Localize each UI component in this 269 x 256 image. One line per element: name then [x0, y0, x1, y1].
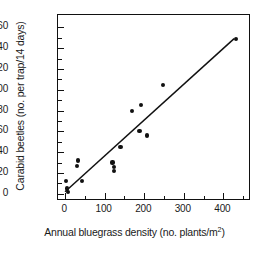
y-axis-title: Carabid beetles (no. per trap/14 days) [14, 8, 26, 204]
y-axis-tick [58, 194, 64, 195]
x-axis-tick [105, 193, 106, 199]
data-point [110, 160, 114, 164]
y-axis-tick-label: 120 [0, 63, 8, 73]
x-axis-minor-tick [164, 196, 165, 200]
x-axis-tick [223, 193, 224, 199]
y-axis-minor-tick [58, 163, 62, 164]
y-axis-minor-tick [58, 79, 62, 80]
x-axis-minor-tick [85, 196, 86, 200]
x-axis-title-text: Annual bluegrass density (no. plants/m [44, 226, 217, 238]
data-point [161, 83, 165, 87]
x-axis-tick-label: 0 [44, 204, 84, 214]
x-axis-minor-tick [243, 196, 244, 200]
y-axis-tick-label: 40 [0, 146, 8, 156]
data-point [76, 158, 80, 162]
y-axis-tick [58, 131, 64, 132]
x-axis-title: Annual bluegrass density (no. plants/m2) [0, 226, 269, 238]
plot-frame [57, 14, 250, 200]
y-axis-tick [58, 152, 64, 153]
data-point [145, 133, 149, 137]
data-point [234, 37, 238, 41]
regression-line [58, 15, 249, 199]
y-axis-tick-label: 0 [3, 188, 8, 198]
x-axis-title-tail: ) [221, 226, 224, 238]
scatter-plot-figure: Carabid beetles (no. per trap/14 days) 0… [0, 0, 269, 256]
y-axis-minor-tick [58, 183, 62, 184]
x-axis-minor-tick [204, 196, 205, 200]
data-point [118, 145, 122, 149]
y-axis-tick [58, 111, 64, 112]
data-point [75, 164, 79, 168]
y-axis-tick [58, 69, 64, 70]
y-axis-tick [58, 27, 64, 28]
x-axis-tick-label: 200 [123, 204, 163, 214]
y-axis-tick-label: 60 [0, 125, 8, 135]
y-axis-minor-tick [58, 38, 62, 39]
x-axis-tick [144, 193, 145, 199]
y-axis-minor-tick [58, 142, 62, 143]
y-axis-tick [58, 173, 64, 174]
x-axis-tick-label: 400 [202, 204, 242, 214]
y-axis-minor-tick [58, 100, 62, 101]
x-axis-tick [184, 193, 185, 199]
y-axis-minor-tick [58, 59, 62, 60]
y-axis-tick [58, 48, 64, 49]
x-axis-tick [65, 193, 66, 199]
y-axis-minor-tick [58, 121, 62, 122]
x-axis-tick-label: 100 [84, 204, 124, 214]
y-axis-tick-label: 160 [0, 21, 8, 31]
plot-area [58, 15, 249, 199]
y-axis-tick [58, 90, 64, 91]
y-axis-tick-label: 80 [0, 105, 8, 115]
x-axis-minor-tick [124, 196, 125, 200]
y-axis-tick-label: 100 [0, 84, 8, 94]
y-axis-tick-label: 140 [0, 42, 8, 52]
x-axis-tick-label: 300 [163, 204, 203, 214]
y-axis-tick-label: 20 [0, 167, 8, 177]
